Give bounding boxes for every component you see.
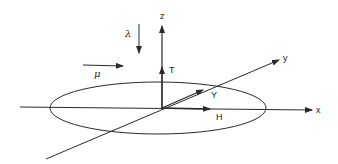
mu-label: μ xyxy=(94,68,101,79)
t-vector: T xyxy=(162,65,175,108)
y-vector: Y xyxy=(162,90,217,108)
mu-arrow: μ xyxy=(83,65,123,79)
h-vector: H xyxy=(162,108,223,122)
t-vector-label: T xyxy=(169,65,175,75)
z-axis-label: z xyxy=(160,11,165,21)
lambda-arrow: λ xyxy=(124,24,139,53)
coordinate-diagram: x y z T Y H λ xyxy=(0,0,338,164)
y-axis-label: y xyxy=(283,53,288,63)
x-axis-label: x xyxy=(316,105,321,115)
h-vector-label: H xyxy=(216,112,223,122)
y-vector-label: Y xyxy=(211,90,217,100)
lambda-label: λ xyxy=(124,28,131,39)
